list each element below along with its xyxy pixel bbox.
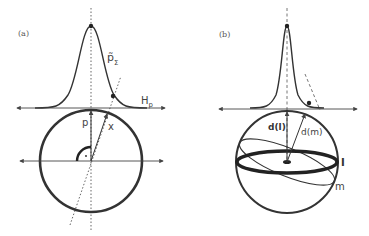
d-l-label: d(l) <box>268 122 286 132</box>
slanted-axis-dotted <box>70 76 121 225</box>
density-label: p̃Σ <box>107 51 118 67</box>
vector-x-label: x <box>108 121 114 132</box>
angle-arc <box>77 147 91 161</box>
vector-p-label: p <box>82 117 88 128</box>
hyperplane-label: Hp <box>141 95 154 109</box>
vector-d-m <box>287 114 305 162</box>
circle-m-label: m <box>335 181 345 192</box>
vector-x <box>91 114 107 161</box>
slanted-axis-dashed <box>305 74 320 110</box>
d-m-label: d(m) <box>301 127 323 137</box>
density-point <box>111 94 115 98</box>
figure: (a) p̃Σ Hp p x (b) <box>0 0 369 236</box>
density-point-b <box>307 101 311 105</box>
panel-a-label: (a) <box>18 29 29 38</box>
angle-dot <box>85 155 87 157</box>
peak-point-b <box>285 24 289 28</box>
panel-a: (a) p̃Σ Hp p x <box>17 8 165 232</box>
panel-b: (b) d(l) d(m) l m <box>219 8 357 213</box>
diagram-canvas: (a) p̃Σ Hp p x (b) <box>0 0 369 236</box>
panel-b-label: (b) <box>219 30 230 39</box>
circle-l-label: l <box>341 156 345 169</box>
peak-point <box>89 24 93 28</box>
